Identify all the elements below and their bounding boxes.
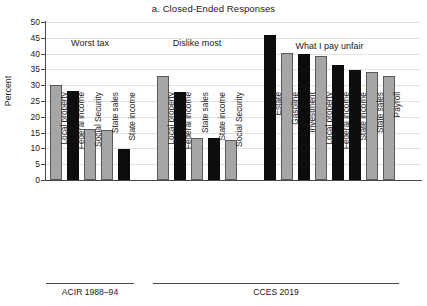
y-axis-tick: [41, 38, 45, 39]
chart-figure: a. Closed-Ended Responses 05101520253035…: [0, 0, 427, 306]
group-annotation: What I pay unfair: [295, 41, 363, 51]
y-axis-tick: [41, 180, 45, 181]
y-axis-tick: [41, 164, 45, 165]
source-group-rule: [46, 283, 134, 284]
x-tick-label: Estate: [274, 92, 283, 184]
x-tick-label: Local property: [60, 92, 69, 184]
y-axis-tick: [41, 69, 45, 70]
y-axis-tick: [41, 54, 45, 55]
x-tick-label: State sales: [201, 92, 210, 184]
x-tick-label: State sales: [376, 92, 385, 184]
source-group-label: CCES 2019: [253, 287, 298, 297]
y-axis-tick: [41, 22, 45, 23]
x-tick-label: Federal income: [77, 92, 86, 184]
group-annotation: Dislike most: [173, 38, 222, 48]
y-axis-tick: [41, 85, 45, 86]
x-tick-label: State income: [218, 92, 227, 184]
y-axis-tick: [41, 117, 45, 118]
x-tick-label: Payroll: [393, 92, 402, 184]
x-tick-label: State income: [359, 92, 368, 184]
x-tick-label: Local property: [167, 92, 176, 184]
x-tick-label: Federal income: [342, 92, 351, 184]
x-tick-label: Gasoline: [291, 92, 300, 184]
x-tick-label: Federal income: [184, 92, 193, 184]
x-tick-label: Social Security: [94, 92, 103, 184]
group-annotation: Worst tax: [71, 38, 109, 48]
y-axis-tick: [41, 101, 45, 102]
source-group-label: ACIR 1988–94: [62, 287, 118, 297]
x-tick-label: State sales: [111, 92, 120, 184]
source-group-rule: [153, 283, 399, 284]
x-tick-label: Social Security: [235, 92, 244, 184]
x-tick-label: Local property: [325, 92, 334, 184]
y-axis-tick: [41, 148, 45, 149]
y-axis-tick: [41, 133, 45, 134]
x-tick-label: Investment: [308, 92, 317, 184]
x-tick-label: State income: [128, 92, 137, 184]
